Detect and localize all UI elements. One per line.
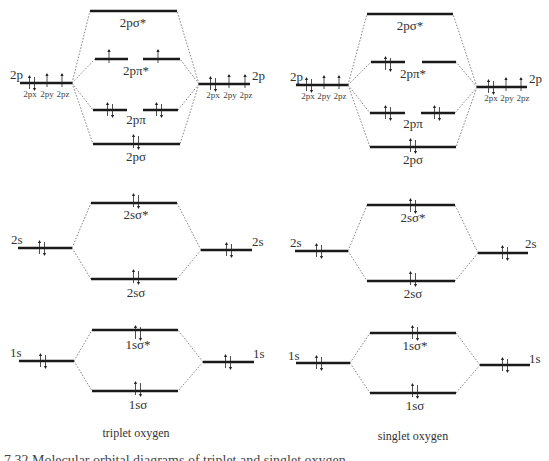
label-2s-sigma-star: 2sσ* xyxy=(123,207,148,222)
svg-text:2px: 2px xyxy=(23,89,37,99)
figure-caption: 7.32 Molecular orbital diagrams of tripl… xyxy=(0,452,549,461)
label-2p-sigma-star: 2pσ* xyxy=(397,18,424,33)
singlet-oxygen-diagram: 2pσ* 2pπ* 2pπ 2pσ 2p 2px 2py 2pz 2p 2px … xyxy=(288,14,542,443)
label-2s-right: 2s xyxy=(525,236,537,251)
electron-pair-icon xyxy=(132,269,140,285)
label-2s-right: 2s xyxy=(252,234,264,249)
label-1s-sigma-star: 1sσ* xyxy=(402,338,427,353)
label-2p-left: 2p xyxy=(10,67,23,82)
svg-text:2px: 2px xyxy=(206,90,220,100)
electron-up-icon xyxy=(337,75,340,89)
label-2p-sigma: 2pσ xyxy=(126,149,146,164)
label-1s-sigma-star: 1sσ* xyxy=(125,337,150,352)
label-1s-right: 1s xyxy=(529,351,541,366)
svg-text:2px: 2px xyxy=(484,93,498,103)
label-2p-left: 2p xyxy=(290,69,303,84)
label-1s-sigma: 1sσ xyxy=(129,397,148,412)
caption-singlet: singlet oxygen xyxy=(378,429,448,443)
triplet-oxygen-diagram: 2pσ* 2pπ* 2pπ 2pσ 2p 2px 2py 2pz 2p 2px … xyxy=(10,11,265,440)
svg-text:2py: 2py xyxy=(317,91,331,101)
label-1s-right: 1s xyxy=(253,346,265,361)
svg-text:2pz: 2pz xyxy=(240,90,253,100)
label-2p-sigma: 2pσ xyxy=(403,152,423,167)
svg-text:2px: 2px xyxy=(301,91,315,101)
electron-up-icon xyxy=(519,77,522,91)
svg-text:2pz: 2pz xyxy=(57,89,70,99)
label-2s-sigma: 2sσ xyxy=(404,286,423,301)
svg-text:2py: 2py xyxy=(500,93,514,103)
label-2p-right: 2p xyxy=(529,71,542,86)
electron-up-icon xyxy=(227,74,230,88)
label-2p-pi: 2pπ xyxy=(126,112,146,127)
electron-up-icon xyxy=(504,77,507,91)
figure-caption-truncated: 7.32 Molecular orbital diagrams of tripl… xyxy=(0,452,549,461)
label-2p-right: 2p xyxy=(252,68,265,83)
svg-text:2py: 2py xyxy=(40,89,54,99)
svg-text:2pz: 2pz xyxy=(517,93,530,103)
electron-up-icon xyxy=(156,49,159,63)
svg-text:2py: 2py xyxy=(223,90,237,100)
label-1s-sigma: 1sσ xyxy=(406,398,425,413)
label-2s-left: 2s xyxy=(290,235,302,250)
electron-pair-icon xyxy=(409,271,417,287)
electron-pair-icon xyxy=(134,381,142,397)
mo-diagram-canvas: 2pσ* 2pπ* 2pπ 2pσ 2p 2px 2py 2pz 2p 2px … xyxy=(0,0,549,461)
electron-up-icon xyxy=(107,49,110,63)
label-2s-sigma: 2sσ xyxy=(127,285,146,300)
label-1s-left: 1s xyxy=(10,345,22,360)
label-2p-sigma-star: 2pσ* xyxy=(120,15,147,30)
electron-pair-icon xyxy=(411,383,419,399)
label-2s-sigma-star: 2sσ* xyxy=(400,210,425,225)
svg-text:2pz: 2pz xyxy=(334,91,347,101)
electron-pair-icon xyxy=(384,56,392,72)
caption-triplet: triplet oxygen xyxy=(103,426,170,440)
label-2p-pi-star: 2pπ* xyxy=(123,63,149,78)
electron-up-icon xyxy=(243,74,246,88)
electron-up-icon xyxy=(322,75,325,89)
label-2p-pi: 2pπ xyxy=(403,116,423,131)
electron-up-icon xyxy=(45,73,48,87)
label-2s-left: 2s xyxy=(11,232,23,247)
electron-pair-icon xyxy=(132,134,140,150)
label-2p-pi-star: 2pπ* xyxy=(400,66,426,81)
electron-up-icon xyxy=(60,73,63,87)
label-1s-left: 1s xyxy=(288,348,300,363)
